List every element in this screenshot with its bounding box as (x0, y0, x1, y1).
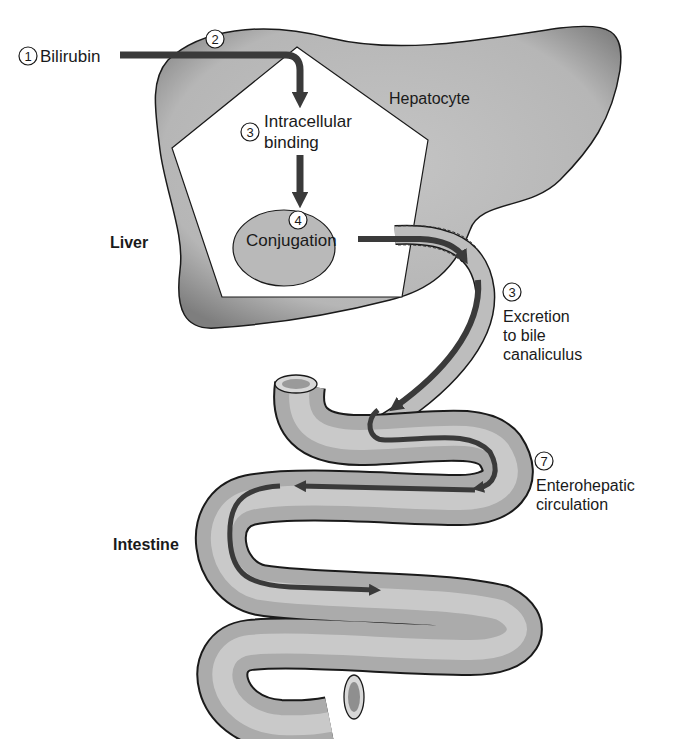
intestine-label: Intestine (113, 536, 179, 553)
intracellular-binding-label-line2: binding (264, 133, 319, 152)
step-3-number: 3 (246, 125, 253, 140)
bilirubin-label: Bilirubin (40, 47, 100, 66)
bilirubin-metabolism-diagram: 1 Bilirubin 2 Hepatocyte 3 Intracellular… (0, 0, 685, 739)
liver-label: Liver (110, 234, 148, 251)
excretion-label-line2: to bile (503, 327, 546, 344)
hepatocyte-label: Hepatocyte (389, 90, 470, 107)
intestine-bottom-lumen (348, 682, 360, 712)
step-3b-number: 3 (508, 285, 515, 300)
intracellular-binding-label-line1: Intracellular (264, 112, 352, 131)
enterohepatic-label-line1: Enterohepatic (536, 477, 635, 494)
step-1-number: 1 (24, 49, 31, 64)
excretion-label-line1: Excretion (503, 308, 570, 325)
conjugation-label: Conjugation (246, 231, 337, 250)
excretion-label-line3: canaliculus (503, 346, 582, 363)
intestine-top-lumen (282, 379, 310, 389)
enterohepatic-label-line2: circulation (536, 496, 608, 513)
step-4-number: 4 (294, 213, 301, 228)
step-2-number: 2 (211, 32, 218, 47)
step-7-number: 7 (540, 454, 547, 469)
